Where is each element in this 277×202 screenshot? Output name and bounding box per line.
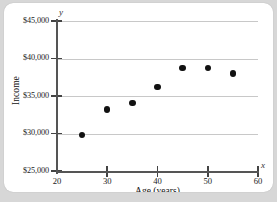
data-point — [154, 84, 160, 90]
gridline — [57, 134, 258, 135]
data-point — [179, 65, 185, 71]
y-axis-tick-label: $40,000 — [23, 53, 49, 62]
y-axis-tick-label: $30,000 — [23, 128, 49, 137]
plot-area: $25,000$30,000$35,000$40,000$45,000 2030… — [4, 3, 273, 192]
y-axis-title: Income — [10, 56, 21, 126]
x-axis-title: Age (years) — [57, 185, 258, 192]
data-point — [79, 132, 85, 138]
y-axis-line — [56, 19, 58, 174]
y-axis-tick-label: $45,000 — [23, 16, 49, 25]
gridline — [57, 59, 258, 60]
data-point — [129, 100, 135, 106]
y-axis-tick-label: $35,000 — [23, 91, 49, 100]
y-axis-tick-label: $25,000 — [23, 166, 49, 175]
data-point — [205, 65, 211, 71]
x-axis-line — [56, 171, 259, 173]
y-axis-symbol: y — [59, 7, 63, 17]
data-point — [104, 106, 110, 112]
data-point — [230, 70, 236, 76]
x-axis-symbol: x — [261, 160, 265, 170]
gridline — [57, 96, 258, 97]
scatter-plot-figure: $25,000$30,000$35,000$40,000$45,000 2030… — [4, 3, 273, 192]
gridline — [57, 21, 258, 22]
